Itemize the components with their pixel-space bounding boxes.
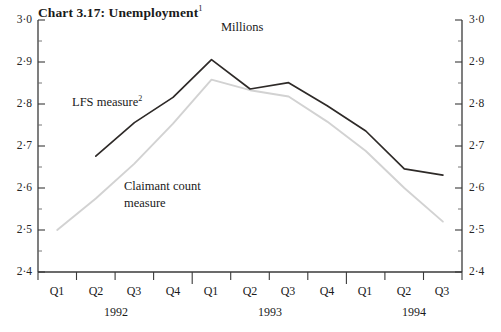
x-axis-year-1994: 1994 bbox=[384, 305, 444, 320]
x-axis-label-q3-1994: Q3 bbox=[422, 284, 462, 299]
x-axis-year-1992: 1992 bbox=[86, 305, 146, 320]
claimant-series-label: Claimant count measure bbox=[124, 178, 201, 212]
x-axis-label-q1-1992: Q1 bbox=[37, 284, 77, 299]
plot-area bbox=[0, 0, 501, 332]
y-axis-left-tick-2-8: 2·8 bbox=[2, 97, 32, 109]
series-line-lfs-measure bbox=[96, 60, 443, 176]
y-axis-right-tick-2-9: 2·9 bbox=[469, 55, 499, 67]
y-axis-left-tick-2-9: 2·9 bbox=[2, 55, 32, 67]
x-axis-ticks bbox=[38, 272, 462, 284]
chart-figure: Chart 3.17: Unemployment1 bbox=[0, 0, 501, 332]
x-axis-label-q4-1993: Q4 bbox=[307, 284, 347, 299]
lfs-series-label-superscript: 2 bbox=[138, 94, 142, 103]
x-axis-year-1993: 1993 bbox=[240, 305, 300, 320]
lfs-series-label-text: LFS measure bbox=[72, 95, 138, 109]
y-axis-right-tick-3-0: 3·0 bbox=[469, 13, 499, 25]
y-axis-right-tick-2-8: 2·8 bbox=[469, 97, 499, 109]
y-axis-right-tick-2-6: 2·6 bbox=[469, 181, 499, 193]
x-axis-label-q2-1993: Q2 bbox=[230, 284, 270, 299]
claimant-series-label-line1: Claimant count bbox=[124, 178, 201, 195]
x-axis-label-q1-1994: Q1 bbox=[345, 284, 385, 299]
axis-frame bbox=[38, 20, 462, 272]
x-axis-label-q3-1992: Q3 bbox=[114, 284, 154, 299]
y-axis-minor-ticks bbox=[38, 41, 462, 251]
y-axis-left-tick-2-5: 2·5 bbox=[2, 223, 32, 235]
y-axis-left-tick-2-6: 2·6 bbox=[2, 181, 32, 193]
y-axis-right-tick-2-4: 2·4 bbox=[469, 265, 499, 277]
x-axis-label-q2-1992: Q2 bbox=[76, 284, 116, 299]
y-axis-left-tick-2-7: 2·7 bbox=[2, 139, 32, 151]
y-axis-right-tick-2-5: 2·5 bbox=[469, 223, 499, 235]
x-axis-label-q3-1993: Q3 bbox=[268, 284, 308, 299]
y-axis-ticks bbox=[38, 20, 462, 272]
y-axis-right-tick-2-7: 2·7 bbox=[469, 139, 499, 151]
units-label: Millions bbox=[221, 20, 263, 35]
y-axis-left-tick-3-0: 3·0 bbox=[2, 13, 32, 25]
x-axis-label-q1-1993: Q1 bbox=[191, 284, 231, 299]
claimant-series-label-line2: measure bbox=[124, 195, 201, 212]
x-axis-label-q4-1992: Q4 bbox=[153, 284, 193, 299]
y-axis-left-tick-2-4: 2·4 bbox=[2, 265, 32, 277]
x-axis-label-q2-1994: Q2 bbox=[384, 284, 424, 299]
lfs-series-label: LFS measure2 bbox=[72, 94, 142, 110]
